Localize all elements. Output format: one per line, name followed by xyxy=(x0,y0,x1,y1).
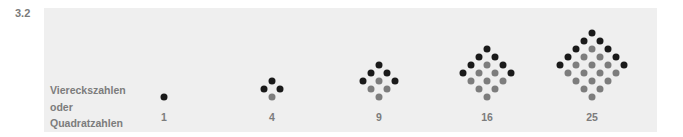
inner-dot xyxy=(581,54,588,61)
edge-dot xyxy=(376,62,383,69)
edge-dot xyxy=(468,62,475,69)
inner-dot xyxy=(484,78,491,85)
inner-dot xyxy=(605,78,612,85)
square-number-label: 16 xyxy=(481,111,493,123)
inner-dot xyxy=(597,86,604,93)
edge-dot xyxy=(605,46,612,53)
square-number-label: 1 xyxy=(161,111,167,123)
edge-dot xyxy=(581,38,588,45)
edge-dot xyxy=(384,70,391,77)
edge-dot xyxy=(392,78,399,85)
figure-number: 3.2 xyxy=(15,7,30,19)
edge-dot xyxy=(621,62,628,69)
edge-dot xyxy=(557,62,564,69)
inner-dot xyxy=(589,94,596,101)
inner-dot xyxy=(269,94,276,101)
row-label-line-1: Viereckszahlen xyxy=(50,82,126,99)
inner-dot xyxy=(573,62,580,69)
inner-dot xyxy=(597,54,604,61)
edge-dot xyxy=(508,70,515,77)
inner-dot xyxy=(589,62,596,69)
edge-dot xyxy=(492,54,499,61)
inner-dot xyxy=(384,86,391,93)
edge-dot xyxy=(573,46,580,53)
edge-dot xyxy=(476,54,483,61)
inner-dot xyxy=(476,86,483,93)
edge-dot xyxy=(360,78,367,85)
inner-dot xyxy=(492,70,499,77)
edge-dot xyxy=(277,86,284,93)
inner-dot xyxy=(597,70,604,77)
inner-dot xyxy=(589,46,596,53)
row-label-line-2: oder xyxy=(50,99,126,116)
edge-dot xyxy=(484,46,491,53)
edge-dot xyxy=(460,70,467,77)
inner-dot xyxy=(573,78,580,85)
inner-dot xyxy=(484,62,491,69)
inner-dot xyxy=(468,78,475,85)
inner-dot xyxy=(565,70,572,77)
inner-dot xyxy=(376,94,383,101)
edge-dot xyxy=(161,94,168,101)
edge-dot xyxy=(269,78,276,85)
inner-dot xyxy=(581,86,588,93)
inner-dot xyxy=(484,94,491,101)
inner-dot xyxy=(376,78,383,85)
row-label-line-3: Quadratzahlen xyxy=(50,115,126,132)
inner-dot xyxy=(500,78,507,85)
square-number-label: 9 xyxy=(376,111,382,123)
edge-dot xyxy=(500,62,507,69)
edge-dot xyxy=(589,30,596,37)
inner-dot xyxy=(581,70,588,77)
edge-dot xyxy=(261,86,268,93)
square-number-label: 4 xyxy=(269,111,275,123)
inner-dot xyxy=(368,86,375,93)
edge-dot xyxy=(565,54,572,61)
inner-dot xyxy=(613,70,620,77)
square-number-label: 25 xyxy=(586,111,598,123)
inner-dot xyxy=(492,86,499,93)
edge-dot xyxy=(613,54,620,61)
inner-dot xyxy=(605,62,612,69)
row-label: Viereckszahlen oder Quadratzahlen xyxy=(50,82,126,132)
inner-dot xyxy=(589,78,596,85)
edge-dot xyxy=(368,70,375,77)
edge-dot xyxy=(597,38,604,45)
inner-dot xyxy=(476,70,483,77)
